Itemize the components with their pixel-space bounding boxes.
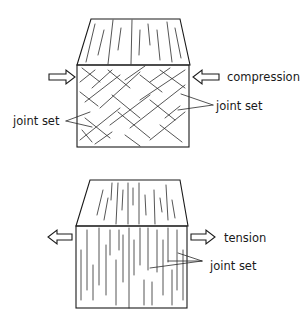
joint-set-pointers-left bbox=[66, 112, 92, 127]
tension-label: tension bbox=[224, 231, 266, 245]
conjugate-joint-set bbox=[80, 66, 185, 146]
joint-set-label: joint set bbox=[209, 259, 257, 273]
block-top-face bbox=[77, 19, 190, 65]
joint-set-label-left: joint set bbox=[12, 114, 60, 128]
compression-arrow-right bbox=[193, 70, 219, 84]
joint-set-diagram: compression joint set joint set bbox=[0, 0, 302, 326]
top-face-streaks bbox=[97, 183, 175, 224]
top-face-streaks bbox=[86, 20, 181, 64]
compression-panel: compression joint set joint set bbox=[12, 19, 300, 147]
tension-panel: tension joint set bbox=[48, 180, 266, 308]
compression-label: compression bbox=[227, 70, 300, 84]
block-top-face bbox=[76, 180, 188, 226]
joint-set-label-right: joint set bbox=[215, 99, 263, 113]
joint-set-pointers bbox=[150, 253, 202, 268]
joint-set-pointers-right bbox=[178, 94, 213, 110]
tension-arrow-left bbox=[48, 230, 72, 244]
tension-arrow-right bbox=[191, 230, 215, 244]
parallel-joint-set bbox=[81, 228, 183, 308]
compression-arrow-left bbox=[49, 70, 75, 84]
